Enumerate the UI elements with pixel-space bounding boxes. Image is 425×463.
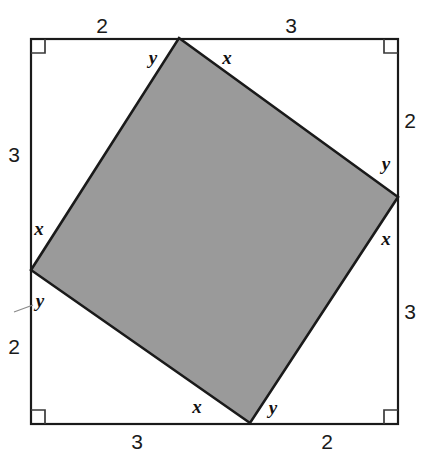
label-right-bottom-segment: 3 xyxy=(404,301,416,322)
label-bottom-right-segment: 2 xyxy=(321,431,333,452)
label-bottom-left-segment: 3 xyxy=(131,431,143,452)
label-left-y: y xyxy=(36,291,44,310)
label-bottom-y: y xyxy=(269,398,277,417)
label-right-top-segment: 2 xyxy=(404,110,416,131)
label-top-right-segment: 3 xyxy=(285,15,297,36)
label-left-bottom-segment: 2 xyxy=(8,336,20,357)
geometry-figure xyxy=(0,0,425,463)
label-top-x: x xyxy=(222,48,232,67)
label-bottom-x: x xyxy=(192,397,202,416)
label-left-x: x xyxy=(34,219,44,238)
label-right-x: x xyxy=(381,229,391,248)
label-top-left-segment: 2 xyxy=(96,15,108,36)
label-top-y: y xyxy=(149,48,157,67)
label-left-top-segment: 3 xyxy=(8,144,20,165)
label-right-y: y xyxy=(382,154,390,173)
